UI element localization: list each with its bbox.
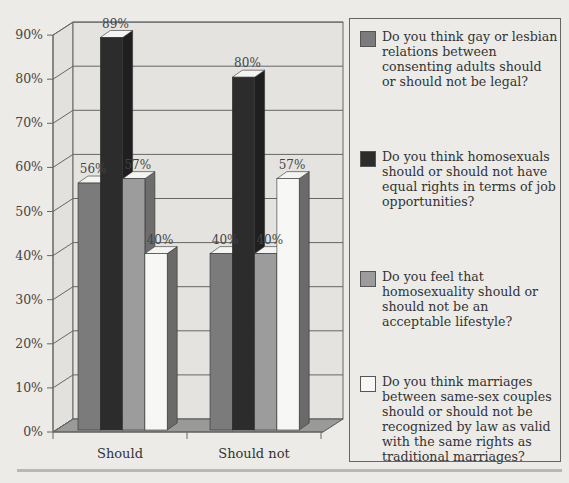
legend-label: Do you think marriages between same-sex … <box>382 374 558 464</box>
bottom-divider <box>17 469 562 472</box>
legend-label: Do you think gay or lesbian relations be… <box>382 29 558 89</box>
y-tick-label: 10% <box>15 380 43 395</box>
bar-0-2 <box>123 179 145 430</box>
chart-plot: 0%10%20%30%40%50%60%70%80%90%Should56%89… <box>0 0 349 483</box>
bar-1-1 <box>232 77 254 430</box>
y-tick-label: 30% <box>15 292 43 307</box>
bar-1-2 <box>255 254 277 430</box>
legend-swatch <box>360 376 376 392</box>
y-tick-label: 40% <box>15 248 43 263</box>
y-tick-label: 0% <box>23 424 43 439</box>
y-tick-label: 90% <box>15 27 43 42</box>
data-label: 57% <box>124 158 151 172</box>
x-category-label: Should <box>97 446 143 461</box>
bar-1-3 <box>277 179 299 430</box>
side-wall <box>53 22 73 432</box>
data-label: 56% <box>80 162 107 176</box>
bar-chart: 0%10%20%30%40%50%60%70%80%90%Should56%89… <box>0 0 349 483</box>
data-label: 40% <box>212 233 239 247</box>
legend-label: Do you feel that homosexuality should or… <box>382 269 558 329</box>
bar-side <box>299 172 309 430</box>
bar-0-1 <box>100 38 122 430</box>
y-tick-label: 70% <box>15 115 43 130</box>
data-label: 40% <box>147 233 174 247</box>
bar-0-0 <box>78 183 100 430</box>
y-tick-label: 50% <box>15 204 43 219</box>
legend-label: Do you think homosexuals should or shoul… <box>382 149 558 209</box>
chart-legend: Do you think gay or lesbian relations be… <box>349 18 561 462</box>
bar-1-0 <box>210 254 232 430</box>
data-label: 80% <box>234 56 261 70</box>
data-label: 40% <box>256 233 283 247</box>
y-tick-label: 80% <box>15 71 43 86</box>
bar-0-3 <box>145 254 167 430</box>
data-label: 57% <box>279 158 306 172</box>
y-tick-label: 60% <box>15 159 43 174</box>
x-category-label: Should not <box>218 446 290 461</box>
legend-swatch <box>360 31 376 47</box>
legend-swatch <box>360 151 376 167</box>
y-tick-label: 20% <box>15 336 43 351</box>
data-label: 89% <box>102 17 129 31</box>
legend-swatch <box>360 271 376 287</box>
bar-side <box>167 247 177 430</box>
